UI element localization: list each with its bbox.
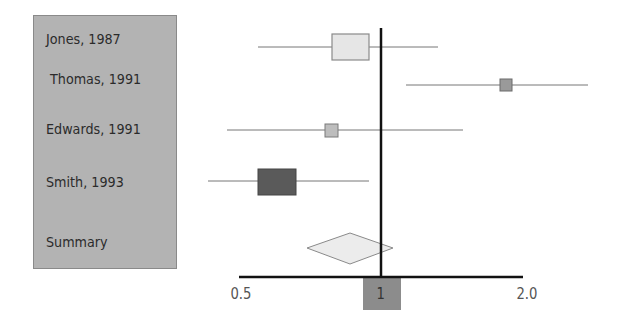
x-tick-1: 1 <box>377 285 385 303</box>
effect-box <box>325 124 338 137</box>
effect-box <box>500 79 512 91</box>
x-tick-0-5: 0.5 <box>230 285 251 303</box>
effect-box <box>258 169 296 195</box>
study-row-smith <box>208 169 369 195</box>
study-row-jones <box>258 34 438 60</box>
x-tick-2-0: 2.0 <box>516 285 537 303</box>
study-row-edwards <box>227 124 463 137</box>
effect-box <box>332 34 369 60</box>
study-row-thomas <box>406 79 588 91</box>
forest-plot <box>0 0 621 322</box>
